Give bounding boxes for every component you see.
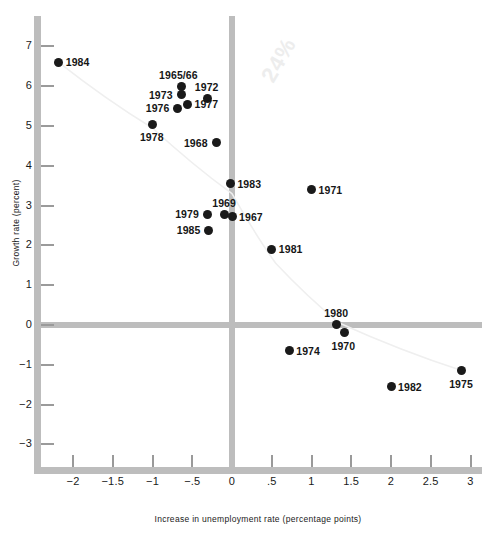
y-axis-tick-label: −1 (4, 359, 32, 370)
data-point-label: 1970 (331, 341, 355, 352)
data-point (148, 120, 157, 129)
data-point-label: 1983 (237, 179, 261, 190)
y-axis-tick (41, 85, 54, 87)
y-axis-tick (41, 404, 54, 406)
y-axis-tick-label: −2 (4, 399, 32, 410)
data-point (173, 104, 182, 113)
horizontal-zero-reference-line (41, 322, 482, 328)
data-point-label: 1981 (279, 244, 303, 255)
x-axis-tick (350, 455, 352, 467)
data-point (228, 212, 237, 221)
data-point (177, 90, 186, 99)
y-axis-tick-label: 7 (4, 40, 32, 51)
x-axis-line (34, 467, 482, 474)
data-point-label: 1980 (324, 308, 348, 319)
handwritten-24-percent-annotation: 24% (256, 33, 302, 87)
data-point-label: 1979 (175, 209, 199, 220)
data-point (387, 382, 396, 391)
data-point-label: 1965/66 (159, 70, 198, 81)
data-point-label: 1982 (398, 382, 422, 393)
y-axis-tick-label: −3 (4, 438, 32, 449)
x-axis-tick-label: 1.5 (331, 476, 371, 487)
x-axis-tick (271, 455, 273, 467)
y-axis-tick-label: 6 (4, 80, 32, 91)
data-point-label: 1972 (195, 82, 219, 93)
x-axis-tick (112, 455, 114, 467)
data-point (203, 210, 212, 219)
data-point-label: 1978 (140, 132, 164, 143)
x-axis-title: Increase in unemployment rate (percentag… (34, 514, 482, 524)
y-axis-tick (41, 45, 54, 47)
data-point (54, 58, 63, 67)
y-axis-tick-label: 5 (4, 120, 32, 131)
data-point (204, 226, 213, 235)
vertical-zero-reference-line (229, 16, 235, 467)
data-point (177, 82, 186, 91)
data-point (457, 366, 466, 375)
data-point-label: 1977 (194, 99, 218, 110)
x-axis-tick (470, 455, 472, 467)
x-axis-tick (311, 455, 313, 467)
x-axis-tick-label: −1 (133, 476, 173, 487)
data-point-label: 1976 (146, 103, 170, 114)
y-axis-line (34, 16, 41, 474)
x-axis-tick (191, 455, 193, 467)
data-point-label: 1969 (212, 198, 236, 209)
data-point (212, 138, 221, 147)
y-axis-tick (41, 324, 54, 326)
y-axis-title: Growth rate (percent) (11, 153, 21, 293)
x-axis-tick-label: 3 (451, 476, 489, 487)
data-point-label: 1967 (239, 212, 263, 223)
data-point (307, 185, 316, 194)
y-axis-tick (41, 125, 54, 127)
y-axis-tick (41, 244, 54, 246)
data-point (267, 245, 276, 254)
data-point (183, 100, 192, 109)
x-axis-tick-label: −1.5 (93, 476, 133, 487)
x-axis-tick-label: 2 (371, 476, 411, 487)
x-axis-tick (72, 455, 74, 467)
y-axis-tick (41, 165, 54, 167)
data-point-label: 1971 (319, 185, 343, 196)
x-axis-tick-label: −2 (53, 476, 93, 487)
y-axis-tick (41, 364, 54, 366)
y-axis-tick (41, 205, 54, 207)
data-point (285, 346, 294, 355)
x-axis-tick-label: 1 (292, 476, 332, 487)
x-axis-tick-label: −.5 (172, 476, 212, 487)
x-axis-tick (430, 455, 432, 467)
data-point-label: 1968 (184, 138, 208, 149)
okun-law-scatter-chart: 24% 76543210−1−2−3 −2−1.5−1−.50.511.522.… (0, 0, 489, 536)
x-axis-tick-label: 0 (212, 476, 252, 487)
data-point-label: 1984 (66, 57, 90, 68)
x-axis-tick (152, 455, 154, 467)
data-point (340, 328, 349, 337)
x-axis-tick (390, 455, 392, 467)
x-axis-tick-label: 2.5 (411, 476, 451, 487)
y-axis-tick-label: 0 (4, 319, 32, 330)
data-point-label: 1974 (296, 346, 320, 357)
y-axis-tick (41, 284, 54, 286)
data-point-label: 1985 (177, 225, 201, 236)
x-axis-tick-label: .5 (252, 476, 292, 487)
data-point-label: 1973 (149, 90, 173, 101)
y-axis-tick (41, 443, 54, 445)
data-point-label: 1975 (449, 379, 473, 390)
